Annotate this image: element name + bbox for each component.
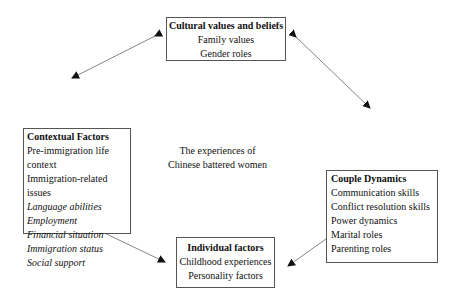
couple-dynamics-title: Couple Dynamics: [331, 172, 437, 186]
couple-item: Conflict resolution skills: [331, 200, 437, 214]
cultural-values-title: Cultural values and beliefs: [167, 19, 285, 33]
couple-item: Marital roles: [331, 228, 437, 242]
couple-item: Communication skills: [331, 186, 437, 200]
individual-item: Personality factors: [177, 269, 274, 283]
contextual-factors-title: Contextual Factors: [27, 130, 130, 144]
cultural-item: Gender roles: [167, 47, 285, 61]
cultural-item: Family values: [167, 33, 285, 47]
central-concept-line: The experiences of: [150, 144, 285, 158]
central-concept: The experiences of Chinese battered wome…: [150, 144, 285, 172]
contextual-item: Immigration-related issues: [27, 172, 130, 200]
cultural-values-box: Cultural values and beliefs Family value…: [166, 17, 286, 61]
couple-item: Parenting roles: [331, 242, 437, 256]
contextual-factors-box: Contextual Factors Pre-immigration life …: [23, 128, 131, 234]
contextual-item: Pre-immigration life context: [27, 144, 130, 172]
central-concept-line: Chinese battered women: [150, 158, 285, 172]
contextual-item-italic: Employment: [27, 214, 130, 228]
individual-item: Childhood experiences: [177, 255, 274, 269]
individual-factors-box: Individual factors Childhood experiences…: [176, 237, 275, 288]
arrow-cultural-contextual: [72, 36, 155, 78]
contextual-item-italic: Immigration status: [27, 242, 130, 256]
contextual-item-italic: Language abilities: [27, 200, 130, 214]
individual-factors-title: Individual factors: [177, 241, 274, 255]
contextual-item-italic: Social support: [27, 256, 130, 270]
contextual-item-italic: Financial situation: [27, 228, 130, 242]
couple-item: Power dynamics: [331, 214, 437, 228]
couple-dynamics-box: Couple Dynamics Communication skills Con…: [326, 170, 438, 263]
arrow-cultural-couple: [296, 37, 370, 108]
